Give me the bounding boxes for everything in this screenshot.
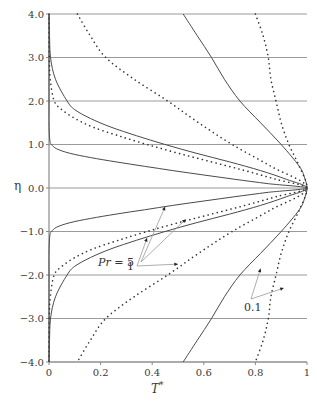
x-axis-label: T*	[151, 380, 164, 396]
y-tick-label: 0.0	[28, 183, 44, 194]
x-tick-label: 1	[304, 367, 310, 378]
y-tick-label: −3.0	[20, 313, 44, 324]
annotations	[137, 207, 284, 299]
arrowhead	[280, 288, 284, 291]
x-tick-label: 0.2	[93, 367, 109, 378]
annotation-pr01-label: 0.1	[244, 301, 262, 314]
y-tick-label: 1.0	[28, 139, 44, 150]
annotation-arrow	[137, 264, 178, 266]
arrowhead	[258, 268, 261, 272]
chart: 4.03.02.01.00.0−1.0−2.0−3.0−4.0 00.20.40…	[0, 0, 317, 401]
y-tick-label: −1.0	[20, 226, 44, 237]
y-axis-label: η	[14, 179, 21, 193]
x-tick-label: 0	[46, 367, 52, 378]
annotation-pr1-label: 1	[127, 260, 134, 273]
annotation-arrow	[251, 268, 261, 299]
arrowhead	[144, 238, 147, 242]
y-tick-label: 2.0	[28, 96, 44, 107]
x-tick-label: 0.4	[144, 367, 160, 378]
y-axis-ticks: 4.03.02.01.00.0−1.0−2.0−3.0−4.0	[20, 9, 49, 368]
x-tick-label: 0.6	[196, 367, 212, 378]
x-tick-label: 0.8	[247, 367, 263, 378]
arrowhead	[174, 263, 178, 266]
gridlines	[49, 14, 307, 362]
annotation-arrow	[141, 219, 186, 262]
y-tick-label: −4.0	[20, 357, 44, 368]
y-tick-label: 4.0	[28, 9, 44, 20]
y-tick-label: −2.0	[20, 270, 44, 281]
y-tick-label: 3.0	[28, 52, 44, 63]
annotation-arrow	[141, 207, 165, 262]
x-axis-ticks: 00.20.40.60.81	[46, 362, 310, 378]
annotation-arrow	[251, 288, 284, 299]
